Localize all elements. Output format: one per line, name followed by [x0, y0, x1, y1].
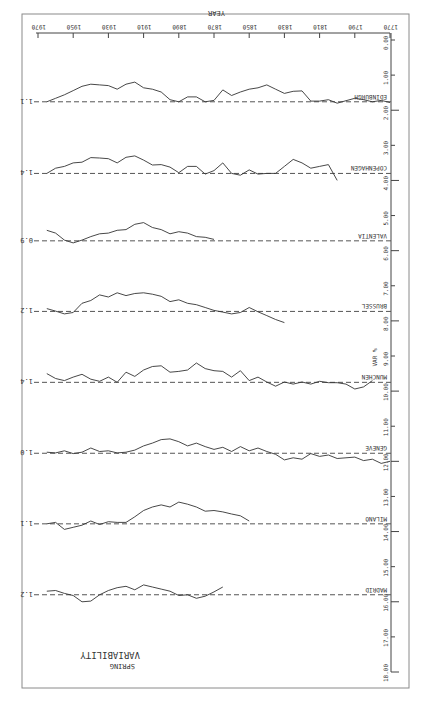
chart-title: VARIABILITY	[80, 650, 140, 660]
station-label: MILANO	[365, 516, 387, 523]
station-mean-value: 1.1	[20, 97, 33, 105]
series-group	[33, 82, 391, 602]
y-tick-label: 16.00	[382, 593, 389, 611]
station-mean-value: 1.0	[20, 448, 33, 456]
y-tick-label: 5.00	[382, 211, 389, 226]
y-tick-label: 14.00	[382, 523, 389, 541]
y-tick-label: 11.00	[382, 418, 389, 436]
station-label: EDINBURGH	[354, 94, 387, 101]
y-tick-label: 0.00	[382, 35, 389, 50]
series-line-valentia	[47, 223, 214, 243]
y-axis-label: VAR %	[371, 348, 378, 366]
series-line-brussel	[47, 293, 285, 323]
station-mean-value: 1.2	[20, 590, 33, 598]
x-tick-label: 1870	[207, 24, 222, 31]
series-line-copenhagen	[47, 156, 337, 181]
y-tick-label: 9.00	[382, 351, 389, 366]
station-mean-value: 1.1	[20, 519, 33, 527]
y-tick-label: 13.00	[382, 488, 389, 506]
y-tick-label: 17.00	[382, 628, 389, 646]
series-line-milano	[47, 502, 249, 529]
y-tick-label: 18.00	[382, 664, 389, 682]
station-mean-value: 0.9	[20, 236, 33, 244]
y-tick-label: 7.00	[382, 281, 389, 296]
station-mean-value: 1.4	[20, 377, 33, 385]
labels-group: EDINBURGH1.1COPENHAGEN1.4VALENTIA0.9BRUS…	[20, 94, 387, 598]
chart-subtitle: SPRING	[110, 662, 135, 670]
station-label: MADRID	[365, 587, 387, 594]
x-tick-label: 1890	[172, 24, 187, 31]
series-line-madrid	[47, 585, 223, 602]
x-tick-label: 1830	[278, 24, 293, 31]
y-tick-label: 6.00	[382, 246, 389, 261]
station-mean-value: 1.4	[20, 168, 33, 176]
y-tick-label: 1.00	[382, 70, 389, 85]
y-tick-label: 10.00	[382, 383, 389, 401]
x-tick-label: 1910	[137, 24, 152, 31]
series-line-geneve	[47, 439, 390, 464]
station-label: GENEVE	[365, 445, 387, 452]
station-label: COPENHAGEN	[350, 165, 387, 172]
y-tick-label: 2.00	[382, 105, 389, 120]
station-label: BRUSSEL	[361, 303, 387, 310]
station-mean-value: 1.2	[20, 306, 33, 314]
y-tick-label: 3.00	[382, 140, 389, 155]
x-tick-label: 1810	[313, 24, 328, 31]
x-tick-label: 1970	[31, 24, 46, 31]
x-tick-label: 1770	[383, 24, 398, 31]
y-tick-label: 15.00	[382, 558, 389, 576]
axes: 1770179018101830185018701890191019301950…	[31, 24, 399, 682]
x-tick-label: 1790	[348, 24, 363, 31]
station-label: MUNCHEN	[361, 374, 387, 381]
series-line-edinburgh	[47, 82, 390, 103]
rotated-chart-stage: 1770179018101830185018701890191019301950…	[0, 0, 425, 704]
x-tick-label: 1930	[102, 24, 117, 31]
x-tick-label: 1850	[242, 24, 257, 31]
series-line-munchen	[47, 363, 373, 389]
chart-frame	[22, 14, 409, 688]
x-axis-label: YEAR	[207, 9, 225, 17]
y-tick-label: 4.00	[382, 176, 389, 191]
x-tick-label: 1950	[66, 24, 81, 31]
variability-chart: 1770179018101830185018701890191019301950…	[0, 0, 425, 704]
y-tick-label: 8.00	[382, 316, 389, 331]
station-label: VALENTIA	[358, 233, 387, 240]
